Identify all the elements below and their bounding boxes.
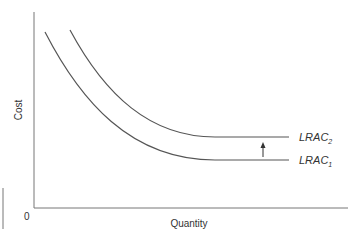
y-axis-label: Cost [13, 99, 24, 120]
x-axis-label: Quantity [170, 218, 207, 229]
lrac2-curve [70, 30, 289, 137]
shift-arrow [261, 142, 266, 157]
origin-label: 0 [24, 211, 30, 222]
lrac2-label: LRAC2 [299, 131, 332, 145]
lrac1-curve [45, 32, 289, 160]
chart-canvas: LRAC2 LRAC1 0 Quantity Cost [0, 0, 348, 238]
lrac1-label: LRAC1 [299, 154, 332, 168]
